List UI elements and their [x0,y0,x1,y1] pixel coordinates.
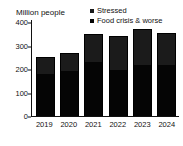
y-tick-label: 300 [15,43,28,51]
bar-column[interactable] [109,20,128,116]
bar-segment-stressed[interactable] [109,36,128,70]
legend-swatch-stressed [90,9,94,13]
bar-segment-food-crisis[interactable] [36,74,55,116]
bar-segment-food-crisis[interactable] [84,62,103,116]
bar-segment-food-crisis[interactable] [133,65,152,116]
y-axis-title: Million people [16,8,65,17]
stacked-bar-chart: Million people Stressed Food crisis & wo… [0,0,183,146]
y-tick-mark [28,93,31,94]
bar-segment-food-crisis[interactable] [157,65,176,116]
legend-item-stressed[interactable]: Stressed [90,7,162,15]
y-tick-mark [28,117,31,118]
x-tick-label: 2020 [57,120,82,134]
bar-segment-stressed[interactable] [36,57,55,73]
bar-column[interactable] [157,20,176,116]
bar-column[interactable] [133,20,152,116]
y-tick-label: 200 [15,66,28,74]
y-tick-label: 400 [15,19,28,27]
x-tick-label: 2021 [81,120,106,134]
legend-label-stressed: Stressed [97,7,127,15]
bar-segment-stressed[interactable] [157,33,176,65]
y-tick-mark [28,70,31,71]
x-tick-label: 2024 [155,120,180,134]
bar-segment-food-crisis[interactable] [60,71,79,116]
y-tick-mark [28,46,31,47]
x-tick-label: 2022 [106,120,131,134]
bar-column[interactable] [60,20,79,116]
bar-segment-stressed[interactable] [84,34,103,62]
bar-column[interactable] [36,20,55,116]
x-tick-label: 2019 [32,120,57,134]
plot-area: 4003002001000 [31,20,179,117]
bars-layer [32,20,179,116]
bar-segment-stressed[interactable] [133,29,152,66]
bar-column[interactable] [84,20,103,116]
bar-segment-food-crisis[interactable] [109,70,128,116]
y-tick-label: 100 [15,90,28,98]
x-axis-line [31,116,179,117]
x-axis-labels: 201920202021202220232024 [31,120,179,134]
y-tick-mark [28,23,31,24]
bar-segment-stressed[interactable] [60,53,79,70]
x-tick-label: 2023 [130,120,155,134]
